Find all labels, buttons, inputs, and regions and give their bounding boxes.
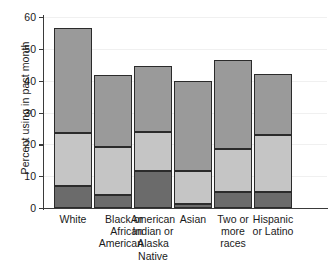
bar-stack <box>94 17 132 208</box>
bar-segment <box>54 186 92 208</box>
bar-segment <box>214 60 252 148</box>
bar-stack <box>134 17 172 208</box>
bar-stack <box>54 17 92 208</box>
bar-segment <box>214 149 252 192</box>
bar-segment <box>94 75 132 147</box>
bar-segment <box>134 171 172 208</box>
bar-segment <box>94 195 132 208</box>
bar-segment <box>94 147 132 195</box>
y-tick-label: 10 <box>8 171 36 181</box>
y-tick-label: 50 <box>8 44 36 54</box>
bar-segment <box>254 192 292 208</box>
y-tick-label: 0 <box>8 203 36 213</box>
y-tick-label: 20 <box>8 139 36 149</box>
plot-area <box>44 17 327 208</box>
bar-segment <box>214 192 252 208</box>
bar-stack <box>214 17 252 208</box>
bar-stack <box>254 17 292 208</box>
bar-segment <box>254 74 292 136</box>
y-tick-mark <box>39 208 44 209</box>
bar-segment <box>174 204 212 208</box>
x-axis-category-label: Hispanic or Latino <box>243 213 303 237</box>
bar-segment <box>254 135 292 192</box>
bar-stack <box>174 17 212 208</box>
bar-segment <box>54 133 92 186</box>
bar-segment <box>174 81 212 171</box>
stacked-bar-chart: Percent using in past month 010203040506… <box>0 0 336 270</box>
bar-segment <box>54 28 92 133</box>
y-tick-label: 40 <box>8 76 36 86</box>
y-tick-label: 30 <box>8 108 36 118</box>
bar-segment <box>134 132 172 171</box>
y-tick-label: 60 <box>8 12 36 22</box>
bar-segment <box>174 171 212 203</box>
bar-segment <box>134 66 172 132</box>
